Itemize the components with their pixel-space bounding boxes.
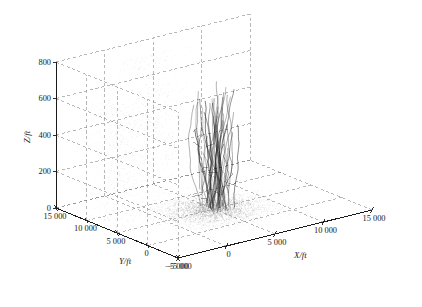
plot-3d-canvas: 0200400600800−5 00005 00010 00015 000−5 … [0,0,422,307]
x-tick-label--5000: −5 000 [168,262,192,271]
z-tick-label-800: 800 [38,58,51,67]
trajectory-lines [189,81,240,213]
grid-floor [56,160,372,258]
y-tick-label-0: 0 [144,249,148,258]
chart-figure: 0200400600800−5 00005 00010 00015 000−5 … [0,0,422,307]
y-tick-label-5000: 5 000 [107,237,126,246]
y-tick-label-10000: 10 000 [74,224,97,233]
x-tick-label-5000: 5 000 [268,238,287,247]
x-axis-title: X/ft [293,250,307,260]
z-tick-label-600: 600 [38,94,51,103]
x-tick-label-0: 0 [226,250,230,259]
y-tick-label-15000: 15 000 [43,212,66,221]
z-tick-label-200: 200 [38,167,51,176]
z-tick-label-400: 400 [38,131,51,140]
z-axis-title: Z/ft [22,130,32,143]
x-tick-label-10000: 10 000 [314,226,337,235]
x-tick-label-15000: 15 000 [362,214,385,223]
y-axis-title: Y/ft [119,256,132,266]
